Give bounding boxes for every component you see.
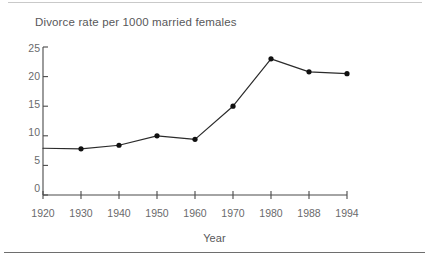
data-point-1940 — [116, 143, 121, 148]
data-point-1994 — [344, 71, 349, 76]
y-axis — [43, 47, 48, 195]
chart-figure: Divorce rate per 1000 married females 25… — [0, 0, 429, 263]
plot-area — [0, 0, 429, 263]
data-point-1988 — [306, 69, 311, 74]
x-axis — [43, 191, 347, 199]
data-point-1970 — [230, 104, 235, 109]
data-point-1980 — [268, 56, 273, 61]
data-point-1950 — [154, 133, 159, 138]
data-point-1960 — [192, 137, 197, 142]
data-point-1930 — [78, 146, 83, 151]
data-series-line — [43, 59, 347, 149]
data-point-markers — [78, 56, 349, 151]
